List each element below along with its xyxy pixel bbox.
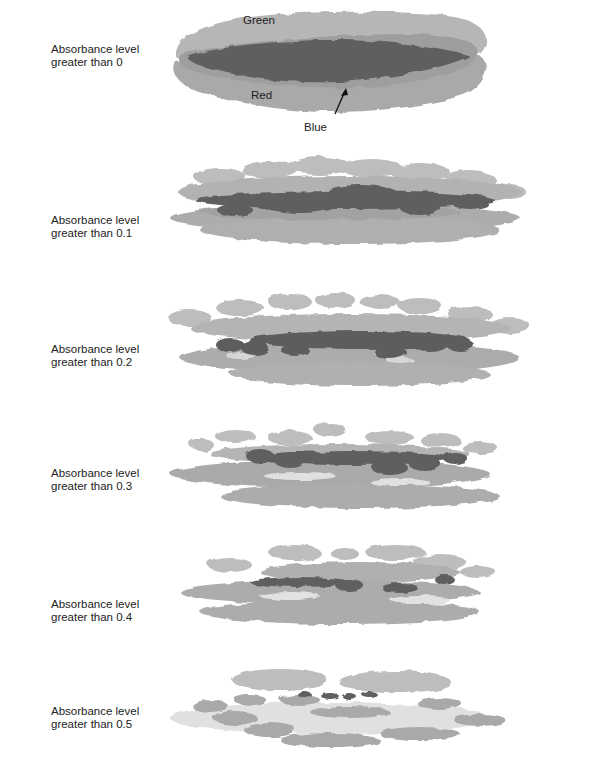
panel-1-shape bbox=[170, 157, 526, 244]
absorbance-diagram bbox=[0, 0, 589, 759]
panel-3-shape bbox=[170, 423, 500, 508]
panel-5-shape bbox=[170, 669, 506, 747]
panel-0-shape bbox=[174, 12, 486, 112]
red-annotation: Red bbox=[251, 89, 272, 101]
panel-2-shape bbox=[168, 292, 530, 386]
panel-4-shape bbox=[180, 544, 496, 624]
blue-annotation: Blue bbox=[304, 121, 327, 133]
green-annotation: Green bbox=[243, 14, 275, 26]
